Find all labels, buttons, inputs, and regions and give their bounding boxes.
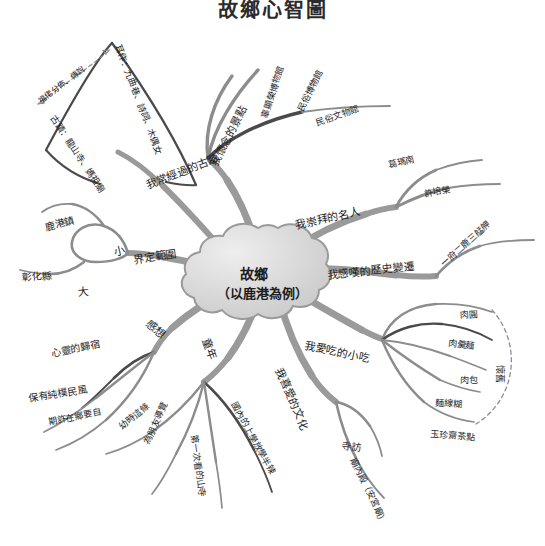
- center-node: [182, 224, 331, 319]
- mindmap-canvas: 故鄉心智圖: [0, 0, 545, 546]
- mindmap-branches: [0, 0, 545, 546]
